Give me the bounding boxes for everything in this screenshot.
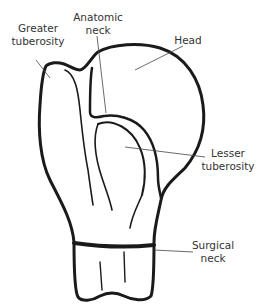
label-line: Lesser [200, 147, 256, 160]
lesser-tuberosity-contour [98, 122, 145, 195]
label-anatomic-neck: Anatomic neck [68, 11, 128, 36]
label-greater-tuberosity: Greater tuberosity [8, 22, 68, 47]
label-line: tuberosity [200, 160, 256, 173]
leader-lesser-tuberosity [125, 147, 205, 157]
label-line: neck [188, 252, 238, 265]
label-lesser-tuberosity: Lesser tuberosity [200, 147, 256, 172]
label-line: Surgical [188, 239, 238, 252]
leader-head [135, 46, 183, 70]
surgical-neck-band [74, 243, 154, 246]
anatomic-neck-edge [90, 68, 161, 198]
label-surgical-neck: Surgical neck [188, 239, 238, 264]
label-line: neck [68, 24, 128, 37]
label-line: Greater [8, 22, 68, 35]
label-head: Head [168, 34, 208, 47]
humerus-diagram: Greater tuberosity Anatomic neck Head Le… [0, 0, 257, 308]
groove-line-2 [130, 195, 142, 228]
label-line: Anatomic [68, 11, 128, 24]
greater-tuberosity-contour [65, 70, 93, 205]
shaft-line-left [100, 262, 102, 290]
label-line: tuberosity [8, 35, 68, 48]
humerus-outline [39, 45, 203, 301]
label-line: Head [168, 34, 208, 47]
groove-line-1 [95, 124, 112, 210]
shaft-line-right [124, 252, 125, 282]
